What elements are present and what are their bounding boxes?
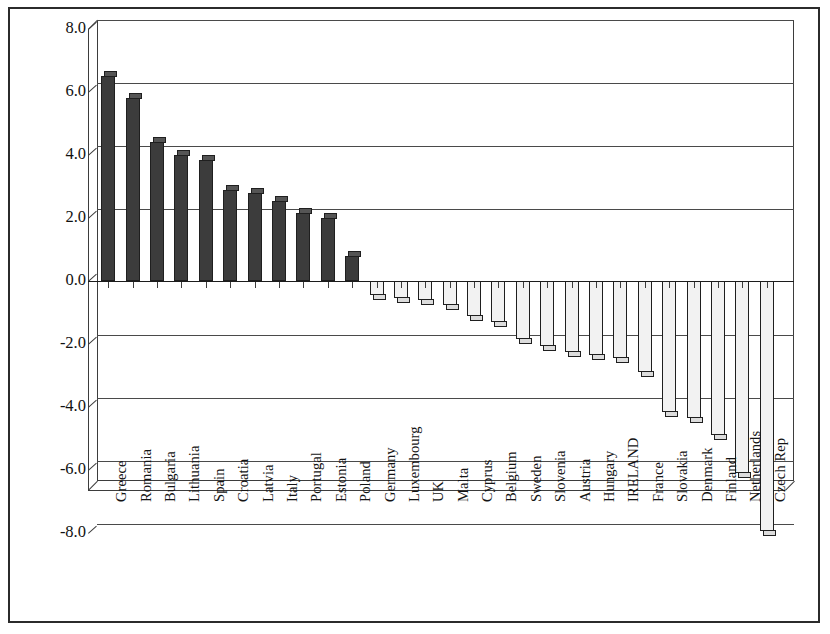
bar-face (101, 76, 115, 281)
x-tick (108, 281, 109, 288)
bar-top-cap (763, 530, 776, 536)
bar-austria (565, 281, 579, 352)
x-tick (572, 281, 573, 288)
bar-top-cap (129, 93, 142, 99)
bar-top-cap (299, 208, 312, 214)
bar-lithuania (174, 155, 188, 281)
bar-face (687, 281, 701, 418)
bar-face (126, 98, 140, 281)
bar-face (199, 160, 213, 281)
bar-italy (272, 201, 286, 281)
x-axis-label-hungary: Hungary (602, 451, 617, 502)
bar-top-cap (714, 434, 727, 440)
x-axis-label-croatia: Croatia (236, 459, 251, 502)
bar-greece (101, 76, 115, 281)
x-axis-label-luxembourg: Luxembourg (407, 426, 422, 502)
bar-top-cap (177, 150, 190, 156)
x-axis-label-austria: Austria (578, 459, 593, 502)
bar-top-cap (324, 213, 337, 219)
bar-top-cap (446, 304, 459, 310)
x-tick (620, 281, 621, 288)
chart-page: 8.06.04.02.00.0-2.0-4.0-6.0-8.0 GreeceRo… (0, 0, 830, 634)
x-tick (133, 281, 134, 288)
y-tick-label: -6.0 (34, 461, 86, 478)
bar-top-cap (519, 338, 532, 344)
bar-face (589, 281, 603, 355)
x-tick (596, 281, 597, 288)
x-tick (450, 281, 451, 288)
x-tick (206, 281, 207, 288)
bar-face (516, 281, 530, 339)
x-axis-label-romania: Romania (139, 449, 154, 502)
bar-top-cap (616, 357, 629, 363)
y-tick-mark (88, 211, 97, 219)
x-axis-label-ireland: IRELAND (626, 438, 641, 502)
x-axis-label-belgium: Belgium (504, 451, 519, 502)
bar-top-cap (104, 71, 117, 77)
bar-face (662, 281, 676, 412)
gridline-6.0 (97, 83, 794, 84)
gridline-4.0 (97, 146, 794, 147)
y-tick-mark (88, 337, 97, 345)
x-axis-label-latvia: Latvia (261, 464, 276, 502)
x-tick (255, 281, 256, 288)
y-tick-mark (88, 85, 97, 93)
y-tick-label: 0.0 (34, 272, 86, 289)
bar-top-cap (494, 321, 507, 327)
x-axis-label-sweden: Sweden (529, 455, 544, 502)
x-tick (718, 281, 719, 288)
bar-top-cap (470, 315, 483, 321)
y-tick-label: 6.0 (34, 83, 86, 100)
bar-croatia (223, 190, 237, 281)
bar-face (613, 281, 627, 358)
x-axis-label-malta: Malta (456, 468, 471, 502)
x-tick (547, 281, 548, 288)
x-tick (425, 281, 426, 288)
bar-portugal (296, 213, 310, 281)
bar-top-cap (251, 188, 264, 194)
x-tick (498, 281, 499, 288)
bar-face (150, 142, 164, 281)
x-tick (230, 281, 231, 288)
bar-sweden (516, 281, 530, 339)
bar-top-cap (275, 196, 288, 202)
bar-face (565, 281, 579, 352)
x-tick (377, 281, 378, 288)
bar-slovakia (662, 281, 676, 412)
x-tick (669, 281, 670, 288)
y-tick-mark (88, 400, 97, 408)
y-tick-label: -4.0 (34, 398, 86, 415)
bar-spain (199, 160, 213, 281)
bar-face (296, 213, 310, 281)
bar-slovenia (540, 281, 554, 346)
x-axis-label-finland: Finland (724, 457, 739, 502)
bar-top-cap (397, 297, 410, 303)
x-tick (303, 281, 304, 288)
x-tick (328, 281, 329, 288)
x-axis-label-slovakia: Slovakia (675, 450, 690, 502)
bar-top-cap (373, 294, 386, 300)
y-tick-mark (88, 463, 97, 471)
bar-top-cap (641, 371, 654, 377)
y-tick-label: -8.0 (34, 524, 86, 541)
x-tick (694, 281, 695, 288)
x-axis-label-denmark: Denmark (700, 447, 715, 502)
x-axis-label-estonia: Estonia (334, 458, 349, 502)
bar-top-cap (153, 137, 166, 143)
x-axis-label-cyprus: Cyprus (480, 460, 495, 503)
bar-top-cap (421, 299, 434, 305)
plot-front-left-edge (88, 29, 89, 490)
gridline--8.0 (97, 524, 794, 525)
bar-face (223, 190, 237, 281)
bar-chart: 8.06.04.02.00.0-2.0-4.0-6.0-8.0 GreeceRo… (0, 0, 830, 634)
bar-face (272, 201, 286, 281)
bar-face (540, 281, 554, 346)
x-tick (279, 281, 280, 288)
x-axis-label-slovenia: Slovenia (553, 450, 568, 502)
bar-denmark (687, 281, 701, 418)
bar-face (638, 281, 652, 372)
gridline-8.0 (97, 20, 794, 21)
x-axis-label-lithuania: Lithuania (187, 446, 202, 502)
bar-face (174, 155, 188, 281)
bar-estonia (321, 218, 335, 281)
